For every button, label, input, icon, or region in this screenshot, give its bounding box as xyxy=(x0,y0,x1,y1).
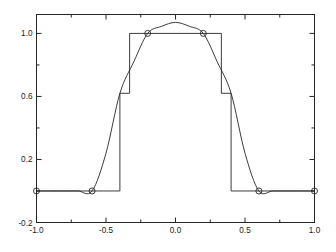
y-tick-label: 0.2 xyxy=(21,155,33,164)
x-axis-tick-labels: -1.0-0.50.00.51.0 xyxy=(29,226,320,235)
x-tick-label: -0.5 xyxy=(99,226,114,235)
x-tick-label: 1.0 xyxy=(309,226,321,235)
y-tick-label: 1.0 xyxy=(21,29,33,38)
y-tick-label: 0.6 xyxy=(21,92,33,101)
x-tick-label: 0.5 xyxy=(239,226,251,235)
plot-area: -1.0-0.50.00.51.0 1.00.60.2-0.2 xyxy=(0,0,336,252)
series-smooth xyxy=(37,22,315,193)
x-tick-label: 0.0 xyxy=(170,226,182,235)
y-tick-label: -0.2 xyxy=(18,219,33,228)
marker-group xyxy=(34,30,318,194)
series-group xyxy=(37,22,315,193)
y-axis-tick-labels: 1.00.60.2-0.2 xyxy=(18,29,33,227)
series-step xyxy=(37,33,315,191)
figure-canvas: -1.0-0.50.00.51.0 1.00.60.2-0.2 xyxy=(0,0,336,252)
